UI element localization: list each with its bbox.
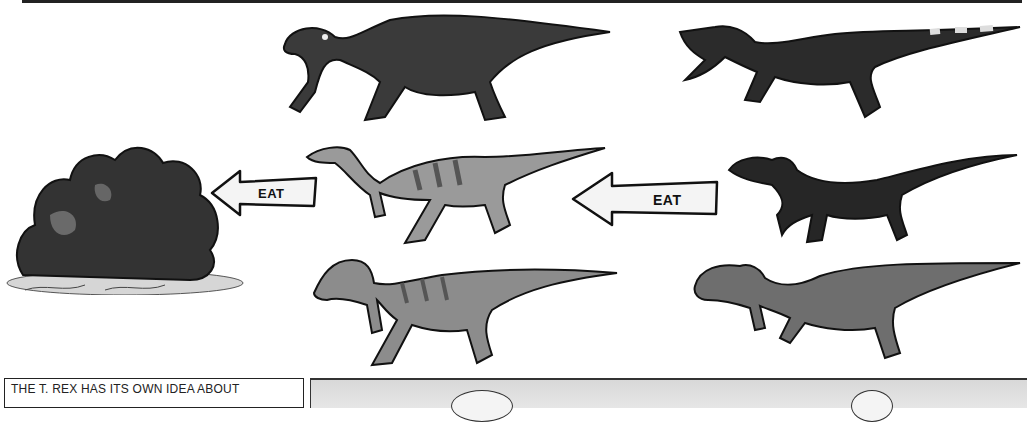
speech-bubble: [451, 390, 513, 422]
ornithopod-illustration: [305, 145, 610, 250]
iguanodon-illustration: [280, 12, 620, 130]
baryonyx-illustration: [675, 22, 1025, 132]
caption-text: THE T. REX HAS ITS OWN IDEA ABOUT: [11, 382, 239, 396]
eat-label-right: EAT: [653, 192, 681, 208]
feathered-raptor-illustration: [727, 150, 1022, 255]
top-panel-border: [22, 0, 1022, 3]
trex-illustration: [690, 258, 1025, 368]
bush-illustration: [5, 135, 245, 295]
next-comic-panel: [310, 378, 1027, 408]
speech-bubble: [851, 390, 893, 422]
caption-box: THE T. REX HAS ITS OWN IDEA ABOUT: [4, 378, 304, 408]
eat-label-left: EAT: [258, 186, 285, 201]
pachycephalosaurus-illustration: [312, 255, 622, 370]
